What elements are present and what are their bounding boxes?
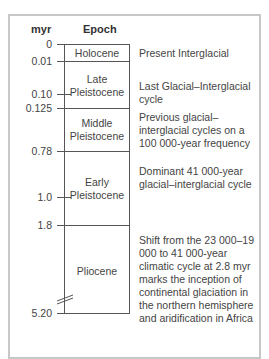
epoch-pliocene: Pliocene (65, 265, 129, 278)
tick-label-1.8: 1.8 (12, 219, 52, 231)
tick-label-5.20: 5.20 (12, 307, 52, 319)
tick-label-0.125: 0.125 (12, 102, 52, 114)
desc-holocene: Present Interglacial (139, 47, 264, 60)
tick-label-0.01: 0.01 (12, 55, 52, 67)
desc-late-pleistocene: Last Glacial–Interglacial cycle (139, 80, 264, 106)
epoch-divider (64, 108, 130, 109)
epoch-header: Epoch (83, 23, 117, 35)
epoch-middle-pleistocene: Middle Pleistocene (65, 117, 129, 143)
desc-middle-pleistocene: Previous glacial–interglacial cycles on … (139, 111, 264, 150)
desc-pliocene: Shift from the 23 000–19 000 to 41 000-y… (139, 234, 264, 325)
desc-early-pleistocene: Dominant 41 000-year glacial–interglacia… (139, 165, 264, 191)
epoch-early-pleistocene: Early Pleistocene (65, 176, 129, 202)
epoch-late-pleistocene: Late Pleistocene (65, 73, 129, 99)
epoch-divider (64, 61, 130, 62)
tick-mark (57, 44, 71, 45)
tick-label-0.10: 0.10 (12, 88, 52, 100)
tick-label-1.0: 1.0 (12, 191, 52, 203)
epoch-divider (64, 151, 130, 152)
tick-label-0.78: 0.78 (12, 145, 52, 157)
myr-header: myr (31, 23, 51, 35)
tick-mark (57, 313, 71, 314)
tick-label-0: 0 (12, 38, 52, 50)
epoch-holocene: Holocene (65, 47, 129, 60)
axis-break-icon (55, 292, 77, 306)
epoch-divider (64, 225, 130, 226)
